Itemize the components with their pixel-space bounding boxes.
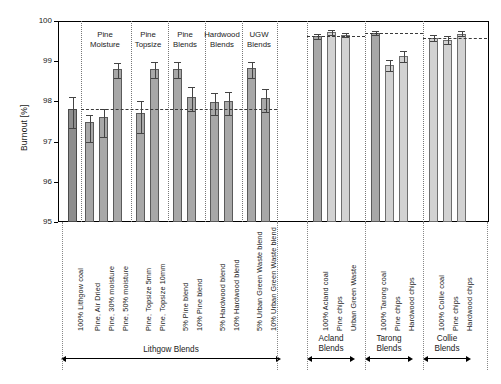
group-separator	[277, 21, 278, 222]
error-bar-cap	[151, 62, 158, 63]
plot-area	[58, 21, 489, 222]
bar	[224, 101, 234, 222]
in-plot-group-label: UGWBlends	[219, 30, 299, 50]
category-label: Urban Green Waste	[349, 265, 358, 331]
error-bar	[118, 63, 119, 78]
error-bar-cap	[262, 89, 269, 90]
reference-line	[423, 38, 487, 39]
bottom-group-label: Lithgow Blends	[121, 345, 221, 355]
category-label: Pine chips	[393, 296, 402, 331]
category-label: Pine, Topsize 10mm	[158, 264, 167, 331]
category-label: Hardwood chips	[465, 277, 474, 331]
error-bar-cap	[86, 142, 93, 143]
category-label: 5% Pine blend	[181, 283, 190, 331]
arrow-right-icon	[408, 356, 413, 362]
bar	[457, 34, 467, 222]
bar	[399, 56, 409, 222]
bar	[150, 69, 160, 222]
group-bracket-line	[312, 358, 350, 359]
error-bar-cap	[444, 44, 451, 45]
error-bar-cap	[342, 37, 349, 38]
error-bar-cap	[262, 112, 269, 113]
bottom-separator	[423, 222, 424, 370]
error-bar-cap	[188, 111, 195, 112]
bar	[341, 35, 351, 222]
bar	[371, 33, 381, 222]
arrow-right-icon	[466, 356, 471, 362]
error-bar-cap	[174, 78, 181, 79]
reference-line	[365, 33, 423, 34]
category-label: 100% Tarong coal	[379, 271, 388, 331]
y-tick-label: 97	[24, 137, 52, 146]
category-label: Pine chips	[451, 296, 460, 331]
category-label: 100% Acland coal	[321, 271, 330, 331]
category-label: Pine, Topsize 5mm	[144, 268, 153, 331]
bar	[187, 97, 197, 222]
error-bar	[155, 62, 156, 78]
y-tick-mark	[54, 61, 58, 62]
error-bar-cap	[386, 71, 393, 72]
bar	[210, 102, 220, 222]
bar	[327, 32, 337, 222]
error-bar-cap	[248, 62, 255, 63]
group-separator	[365, 21, 366, 222]
group-separator	[131, 21, 132, 222]
bottom-separator	[277, 222, 278, 370]
error-bar-cap	[174, 62, 181, 63]
category-label: 10% Hardwood blend	[232, 259, 241, 331]
group-bracket-line	[66, 358, 276, 359]
category-label: 5% Urban Green Waste blend	[255, 231, 264, 331]
bar	[261, 98, 271, 222]
bar	[313, 36, 323, 222]
bar	[173, 69, 183, 222]
error-bar-cap	[137, 133, 144, 134]
category-label: Pine, 50% moisture	[121, 266, 130, 331]
error-bar	[215, 93, 216, 115]
bar	[429, 38, 439, 222]
error-bar-cap	[248, 78, 255, 79]
error-bar	[73, 97, 74, 128]
reference-line	[81, 109, 277, 110]
error-bar-cap	[211, 115, 218, 116]
error-bar	[229, 92, 230, 115]
y-tick-label: 98	[24, 96, 52, 105]
burnout-bar-chart: Burnout [%] 1009998979695 PineMoisturePi…	[0, 0, 501, 384]
error-bar-cap	[114, 63, 121, 64]
error-bar-cap	[151, 78, 158, 79]
error-bar-cap	[400, 62, 407, 63]
error-bar-cap	[225, 115, 232, 116]
error-bar	[141, 101, 142, 132]
category-label: Pine, 30% moisture	[107, 266, 116, 331]
category-label: Pine, Air Dried	[93, 283, 102, 331]
group-separator	[423, 21, 424, 222]
error-bar	[90, 115, 91, 142]
error-bar-cap	[386, 60, 393, 61]
bottom-group-label: CollieBlends	[397, 334, 497, 354]
category-label: 10% Pine blend	[195, 278, 204, 331]
error-bar-cap	[188, 87, 195, 88]
bar	[443, 40, 453, 222]
error-bar-cap	[372, 31, 379, 32]
error-bar	[404, 51, 405, 61]
error-bar-cap	[342, 33, 349, 34]
error-bar	[390, 60, 391, 71]
arrow-right-icon	[350, 356, 355, 362]
group-separator	[307, 21, 308, 222]
group-separator	[205, 21, 206, 222]
y-tick-mark	[54, 182, 58, 183]
error-bar-cap	[86, 115, 93, 116]
error-bar	[178, 62, 179, 78]
error-bar-cap	[328, 30, 335, 31]
y-tick-mark	[54, 222, 58, 223]
bar	[247, 68, 257, 222]
error-bar	[104, 109, 105, 137]
bar	[385, 65, 395, 222]
bottom-separator	[307, 222, 308, 370]
category-label: Hardwood chips	[407, 277, 416, 331]
error-bar-cap	[400, 51, 407, 52]
y-tick-label: 100	[24, 16, 52, 25]
reference-line	[307, 36, 365, 37]
group-separator	[81, 21, 82, 222]
group-bracket-line	[370, 358, 408, 359]
error-bar-cap	[211, 93, 218, 94]
